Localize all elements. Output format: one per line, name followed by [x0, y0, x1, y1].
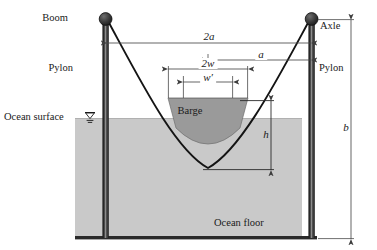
dimension-label-2a: 2a [201, 31, 218, 42]
pylon-left [102, 20, 108, 238]
ocean-floor-line [75, 236, 317, 239]
ocean-floor-label: Ocean floor [214, 218, 264, 229]
barge-label: Barge [178, 106, 203, 117]
pylon-left-label: Pylon [48, 63, 73, 74]
ocean-surface-label: Ocean surface [4, 112, 64, 123]
pylon-right-label: Pylon [319, 63, 344, 74]
boom-axle-right [305, 13, 318, 26]
boom-label: Boom [42, 13, 68, 24]
axle-label: Axle [320, 21, 340, 32]
boom-axle-left [99, 13, 112, 26]
dimension-label-b: b [343, 122, 349, 133]
dimension-label-2w: 2w [199, 58, 218, 69]
dimension-label-a: a [255, 49, 267, 60]
cable-barge-diagram [0, 0, 377, 250]
pylon-right [308, 20, 314, 238]
dimension-label-h: h [263, 129, 269, 140]
dimension-label-w-prime: w′ [200, 72, 216, 83]
